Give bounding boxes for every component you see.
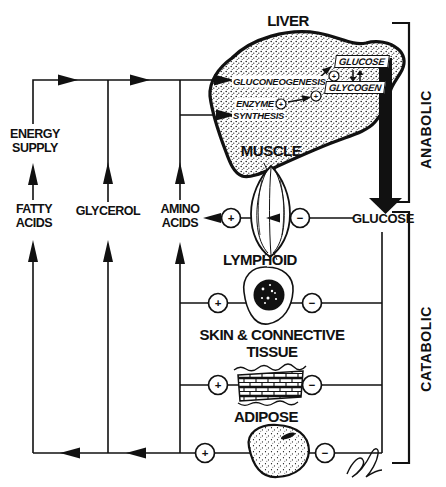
cell-nucleus: [254, 280, 285, 311]
catabolic-bracket: [392, 212, 409, 463]
arrowhead-icon: [103, 162, 113, 184]
skin-tissue-illustration: [234, 364, 306, 405]
glycerol-label: GLYCEROL: [76, 204, 140, 218]
svg-text:−: −: [309, 379, 316, 391]
synthesis-label: SYNTHESIS: [232, 110, 285, 121]
plus-circle-icon: +: [276, 99, 286, 109]
energy-supply-label: ENERGY SUPPLY: [10, 127, 60, 156]
arrowhead-icon: [130, 75, 150, 86]
skin-connective-label-line2: TISSUE: [200, 344, 345, 361]
plus-circle-icon: +: [196, 444, 215, 463]
top-flow-line: [33, 80, 228, 124]
arrowhead-icon: [58, 75, 78, 86]
glucose-node-label: GLUCOSE: [352, 212, 414, 227]
liver-label: LIVER: [267, 13, 309, 30]
liver-glucose-box: GLUCOSE: [334, 55, 389, 68]
plus-circle-icon: +: [209, 294, 228, 313]
minus-circle-icon: −: [316, 444, 335, 463]
svg-text:+: +: [314, 92, 319, 101]
diagram-artwork: + − + − + −: [0, 0, 446, 487]
skin-connective-label: SKIN & CONNECTIVE TISSUE: [200, 327, 345, 361]
arrowhead-icon: [175, 242, 185, 264]
anabolic-label: ANABOLIC: [418, 90, 434, 169]
svg-text:+: +: [332, 72, 337, 81]
catabolic-label: CATABOLIC: [418, 306, 434, 392]
minus-circle-icon: −: [303, 376, 322, 395]
arrowhead-icon: [103, 240, 113, 262]
svg-text:+: +: [215, 297, 222, 309]
arrowhead-icon: [126, 448, 146, 459]
plus-circle-icon: +: [222, 209, 241, 228]
arrowhead-icon: [28, 240, 38, 262]
muscle-label: MUSCLE: [241, 143, 301, 160]
amino-acids-label: AMINO ACIDS: [160, 202, 199, 231]
fatty-acids-label: FATTY ACIDS: [16, 202, 52, 231]
metabolic-regulation-diagram: + − + − + −: [0, 0, 446, 487]
svg-text:+: +: [279, 100, 284, 109]
arrowhead-icon: [28, 163, 38, 185]
arrowhead-icon: [203, 213, 221, 223]
minus-circle-icon: −: [303, 294, 322, 313]
liver-glycogen-box: GLYCOGEN: [324, 81, 386, 94]
arrowhead-icon: [175, 162, 185, 184]
minus-circle-icon: −: [291, 209, 310, 228]
lymphoid-cell-illustration: [244, 267, 293, 324]
svg-text:−: −: [309, 297, 316, 309]
plus-circle-icon: +: [329, 71, 339, 81]
plus-circle-icon: +: [311, 91, 321, 101]
adipose-label: ADIPOSE: [234, 409, 298, 426]
gluconeogenesis-label: GLUCONEOGENESIS: [232, 76, 327, 87]
phase-brackets: [392, 23, 409, 463]
enzyme-label: ENZYME: [235, 98, 275, 109]
skin-connective-label-line1: SKIN & CONNECTIVE: [200, 327, 345, 344]
lymphoid-label: LYMPHOID: [223, 252, 297, 269]
muscle-illustration: [251, 163, 290, 260]
svg-text:−: −: [322, 447, 329, 459]
svg-text:+: +: [228, 212, 235, 224]
svg-text:+: +: [202, 447, 209, 459]
svg-text:−: −: [297, 212, 304, 224]
svg-text:+: +: [215, 379, 222, 391]
plus-circle-icon: +: [209, 376, 228, 395]
arrowhead-icon: [60, 448, 80, 459]
adipose-illustration: [249, 425, 309, 477]
